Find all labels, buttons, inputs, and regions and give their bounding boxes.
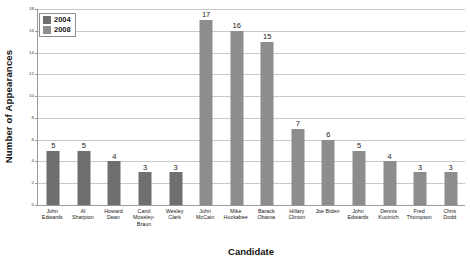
bar-slot: 3 — [435, 9, 466, 205]
x-axis-tick-label: WesleyClark — [159, 208, 190, 221]
y-axis-tick-label: 16 — [29, 29, 34, 33]
x-axis-tick-label: DennisKucinich — [373, 208, 404, 221]
y-axis-tick-label: 18 — [29, 7, 34, 11]
bar-slot: 5 — [344, 9, 375, 205]
legend-label: 2004 — [54, 16, 71, 24]
bar-slot: 5 — [38, 9, 69, 205]
bar-slot: 5 — [69, 9, 100, 205]
x-axis-title: Candidate — [37, 246, 465, 257]
x-axis-tick-label: FredThompson — [404, 208, 435, 221]
bar-chart-figure: Number of Appearances 024681012141618 55… — [0, 0, 470, 268]
bar-slot: 3 — [130, 9, 161, 205]
legend-entry[interactable]: 2008 — [43, 26, 71, 34]
bar-slot: 6 — [313, 9, 344, 205]
bar[interactable]: 7 — [291, 129, 304, 205]
bar-slot: 7 — [283, 9, 314, 205]
x-axis-tick-label: JohnEdwards — [343, 208, 374, 221]
bar-value-label: 4 — [387, 153, 391, 161]
bar[interactable]: 6 — [322, 140, 335, 205]
bar[interactable]: 5 — [352, 151, 365, 205]
x-axis-tick-label: HowardDean — [98, 208, 129, 221]
bar-slot: 4 — [99, 9, 130, 205]
bar-value-label: 5 — [51, 142, 55, 150]
x-axis-tick-labels: JohnEdwardsAlSharptonHowardDeanCarolMose… — [37, 208, 465, 242]
y-axis-tick-label: 6 — [32, 137, 34, 141]
y-axis-tick-labels: 024681012141618 — [18, 9, 36, 205]
bar-value-label: 4 — [112, 153, 116, 161]
y-axis-tick-label: 14 — [29, 50, 34, 54]
x-axis-tick-label: HillaryClinton — [282, 208, 313, 221]
x-axis-tick-label: Joe Biden — [312, 208, 343, 214]
bar-value-label: 3 — [418, 164, 422, 172]
bar[interactable]: 5 — [77, 151, 90, 205]
y-axis-tick-mark — [35, 205, 38, 206]
chart-legend: 20042008 — [39, 13, 76, 37]
bar-slot: 3 — [160, 9, 191, 205]
bar-value-label: 7 — [296, 120, 300, 128]
bar-value-label: 5 — [82, 142, 86, 150]
bar[interactable]: 3 — [444, 172, 457, 205]
bar-slot: 3 — [405, 9, 436, 205]
bar[interactable]: 3 — [414, 172, 427, 205]
x-axis-tick-label: MikeHuckabee — [220, 208, 251, 221]
bar[interactable]: 3 — [138, 172, 151, 205]
bar-value-label: 17 — [202, 11, 210, 19]
bar[interactable]: 5 — [47, 151, 60, 205]
legend-label: 2008 — [54, 26, 71, 34]
bar[interactable]: 3 — [169, 172, 182, 205]
y-axis-tick-label: 4 — [32, 159, 34, 163]
plot-area: 55433171615765433 — [37, 9, 465, 205]
bar[interactable]: 17 — [200, 20, 213, 205]
gridline — [38, 205, 465, 206]
y-axis-tick-label: 12 — [29, 72, 34, 76]
y-axis-tick-label: 0 — [32, 203, 34, 207]
bar-value-label: 5 — [357, 142, 361, 150]
bar-value-label: 3 — [449, 164, 453, 172]
bar[interactable]: 16 — [230, 31, 243, 205]
bar-slot: 17 — [191, 9, 222, 205]
y-axis-tick-label: 10 — [29, 94, 34, 98]
y-axis-title: Number of Appearances — [0, 0, 18, 212]
y-axis-title-label: Number of Appearances — [4, 49, 15, 163]
bar[interactable]: 15 — [261, 42, 274, 205]
x-axis-tick-label: CarolMoseley-Braun — [129, 208, 160, 227]
bar-value-label: 16 — [233, 22, 241, 30]
x-axis-tick-label: BarackObama — [251, 208, 282, 221]
bar-value-label: 6 — [326, 131, 330, 139]
bar[interactable]: 4 — [108, 161, 121, 205]
x-axis-tick-label: AlSharpton — [68, 208, 99, 221]
legend-swatch — [43, 26, 51, 34]
y-axis-tick-label: 8 — [32, 116, 34, 120]
bars-layer: 55433171615765433 — [38, 9, 465, 205]
bar-slot: 16 — [221, 9, 252, 205]
bar-slot: 4 — [374, 9, 405, 205]
bar-value-label: 15 — [263, 33, 271, 41]
x-axis-tick-label: ChrisDodd — [434, 208, 465, 221]
y-axis-tick-label: 2 — [32, 181, 34, 185]
x-axis-tick-label: JohnEdwards — [37, 208, 68, 221]
bar-slot: 15 — [252, 9, 283, 205]
bar-value-label: 3 — [143, 164, 147, 172]
legend-swatch — [43, 16, 51, 24]
x-axis-tick-label: JohnMcCain — [190, 208, 221, 221]
bar-value-label: 3 — [173, 164, 177, 172]
legend-entry[interactable]: 2004 — [43, 16, 71, 24]
bar[interactable]: 4 — [383, 161, 396, 205]
